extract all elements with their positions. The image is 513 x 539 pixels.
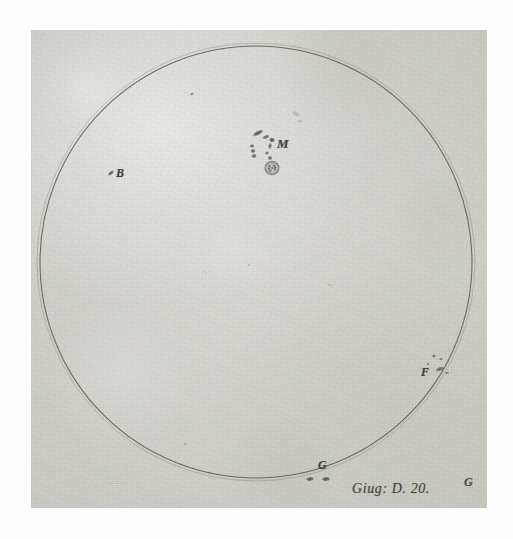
spot-label-g-limb: G bbox=[464, 476, 473, 488]
spot-label-g-pair: G bbox=[318, 459, 327, 471]
plate-canvas: M B F G G Giug: D. 20. ..... bbox=[0, 0, 513, 539]
faint-inscription: ..... bbox=[108, 474, 129, 486]
spot-label-m: M bbox=[277, 137, 289, 150]
paper-grain-texture bbox=[31, 30, 487, 508]
spot-label-b: B bbox=[116, 167, 124, 179]
drawing-caption: Giug: D. 20. bbox=[352, 481, 430, 497]
paper-mottling-texture bbox=[31, 30, 487, 508]
spot-label-f: F bbox=[421, 366, 429, 378]
paper-sheet bbox=[31, 30, 487, 508]
